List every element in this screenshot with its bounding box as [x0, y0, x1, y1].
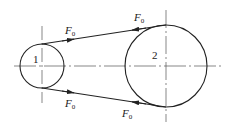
pulley-2-label: 2 [152, 49, 158, 61]
force-arrow-bottom-right [132, 102, 146, 104]
pulley-1-label: 1 [33, 53, 39, 65]
belt-upper-span [42, 25, 166, 44]
force-label-bottom-left: F0 [64, 97, 76, 111]
force-label-top-right: F0 [133, 11, 145, 25]
belt-drive-diagram: 1 2 F0 F0 F0 F0 [0, 0, 237, 128]
force-label-top-left: F0 [64, 24, 76, 38]
force-label-bottom-right: F0 [121, 107, 133, 121]
belt-lower-span [42, 88, 166, 107]
force-arrow-top-right [132, 28, 146, 30]
